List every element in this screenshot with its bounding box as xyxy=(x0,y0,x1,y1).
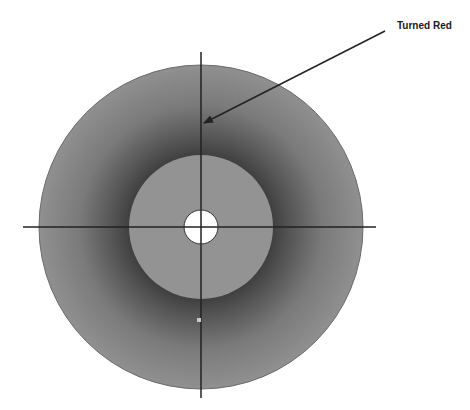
marker-dot xyxy=(197,318,201,322)
disc-diagram xyxy=(0,0,470,410)
annotation-label: Turned Red xyxy=(397,20,452,31)
